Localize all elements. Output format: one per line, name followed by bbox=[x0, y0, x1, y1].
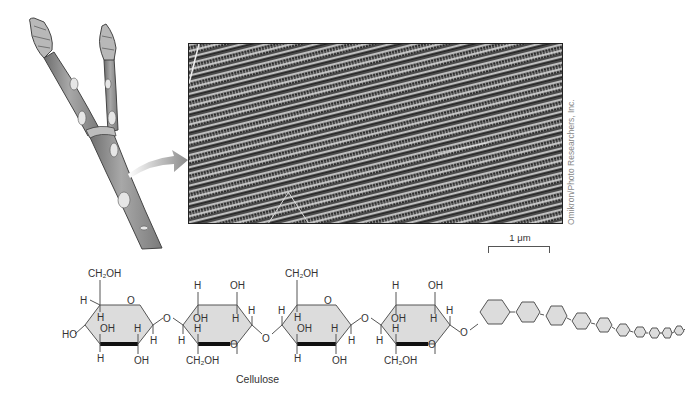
label-ring-o-3: O bbox=[324, 295, 332, 306]
label-h: H bbox=[80, 295, 87, 306]
label-h: H bbox=[97, 312, 104, 323]
label-h: H bbox=[376, 335, 383, 346]
label-oh: OH bbox=[428, 280, 443, 291]
label-glycosidic-o-2: O bbox=[262, 333, 270, 344]
label-h: H bbox=[331, 323, 338, 334]
label-glycosidic-o-1: O bbox=[163, 313, 171, 324]
label-h: H bbox=[294, 353, 301, 364]
scale-bar-label: 1 μm bbox=[486, 232, 554, 243]
label-ring-o-1: O bbox=[127, 295, 135, 306]
label-h: H bbox=[194, 323, 201, 334]
micrograph-image bbox=[189, 44, 562, 223]
label-oh: OH bbox=[230, 280, 245, 291]
electron-micrograph bbox=[188, 43, 563, 224]
label-h: H bbox=[392, 280, 399, 291]
label-oh: OH bbox=[332, 355, 347, 366]
label-ring-o-4: O bbox=[428, 339, 436, 350]
figure-caption: Cellulose bbox=[236, 373, 279, 385]
photo-credit: Omikron/Photo Researchers, Inc. bbox=[566, 50, 580, 225]
twig-icon bbox=[0, 0, 200, 260]
label-ho: HO bbox=[62, 329, 77, 340]
cellulose-structure: CH₂OH O H H HO OH H H OH H O H OH OH H H… bbox=[60, 262, 690, 372]
scale-bar-line bbox=[488, 246, 550, 253]
label-h: H bbox=[178, 335, 185, 346]
label-oh: OH bbox=[100, 323, 115, 334]
label-h: H bbox=[348, 335, 355, 346]
label-glycosidic-o-3: O bbox=[361, 313, 369, 324]
label-ch2oh-3: CH₂OH bbox=[285, 268, 318, 279]
label-h: H bbox=[232, 313, 239, 324]
label-oh: OH bbox=[297, 323, 312, 334]
twig-illustration bbox=[0, 0, 200, 260]
cellulose-structure-diagram: CH₂OH O H H HO OH H H OH H O H OH OH H H… bbox=[60, 262, 690, 372]
label-h: H bbox=[97, 353, 104, 364]
scale-bar: 1 μm bbox=[486, 232, 554, 254]
label-ring-o-2: O bbox=[230, 339, 238, 350]
label-h: H bbox=[446, 305, 453, 316]
label-h: H bbox=[248, 305, 255, 316]
label-glycosidic-o-4: O bbox=[460, 327, 468, 338]
label-oh: OH bbox=[134, 355, 149, 366]
label-h: H bbox=[430, 313, 437, 324]
photo-credit-text: Omikron/Photo Researchers, Inc. bbox=[566, 99, 576, 225]
label-h: H bbox=[278, 305, 285, 316]
label-h: H bbox=[392, 323, 399, 334]
label-h: H bbox=[150, 335, 157, 346]
label-h: H bbox=[194, 280, 201, 291]
label-ch2oh-4: CH₂OH bbox=[384, 355, 417, 366]
label-h: H bbox=[294, 312, 301, 323]
label-h: H bbox=[134, 323, 141, 334]
label-ch2oh-2: CH₂OH bbox=[186, 355, 219, 366]
label-ch2oh-1: CH₂OH bbox=[88, 268, 121, 279]
